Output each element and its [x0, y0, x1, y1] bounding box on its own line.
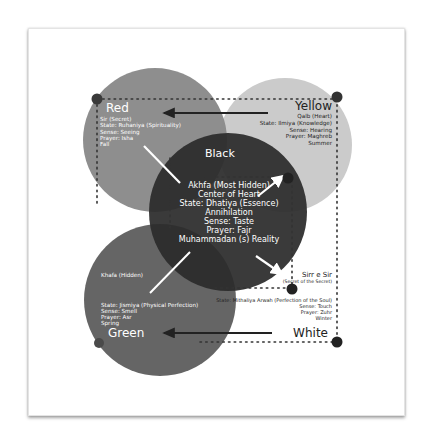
yellow-line: Prayer: Maghreb: [260, 133, 332, 140]
white-line: Winter: [216, 315, 332, 321]
yellow-details: Qalb (Heart) State: Ilmiya (Knowledge) S…: [260, 113, 332, 147]
green-details: State: Jismiya (Physical Perfection) Sen…: [101, 302, 198, 327]
red-title: Red: [106, 102, 129, 115]
green-name: Khafa (Hidden): [101, 273, 143, 279]
red-line: State: Ruhaniya (Spirituality): [100, 122, 181, 128]
green-title: Green: [108, 327, 144, 340]
white-title: White: [293, 327, 328, 340]
yellow-title: Yellow: [295, 100, 332, 113]
red-node-dot: [92, 94, 103, 105]
green-node-dot: [94, 338, 104, 348]
yellow-line: Summer: [260, 140, 332, 147]
yellow-line: State: Ilmiya (Knowledge): [260, 120, 332, 127]
red-details: Sir (Secret) State: Ruhaniya (Spirituali…: [100, 116, 181, 147]
red-line: Fall: [100, 141, 181, 147]
yellow-line: Qalb (Heart): [260, 113, 332, 120]
black-line: Muhammadan (s) Reality: [168, 236, 290, 245]
white-node-dot: [332, 337, 343, 348]
black-details: Akhfa (Most Hidden) Center of Heart Stat…: [168, 182, 290, 245]
white-subname: (Secret of the Secret): [283, 280, 332, 285]
white-details: State: Mithaliya Arwah (Perfection of th…: [216, 297, 332, 321]
yellow-line: Sense: Hearing: [260, 127, 332, 134]
yellow-node-dot: [332, 92, 343, 103]
black-title: Black: [205, 148, 235, 160]
sirr-node-dot: [287, 284, 298, 295]
